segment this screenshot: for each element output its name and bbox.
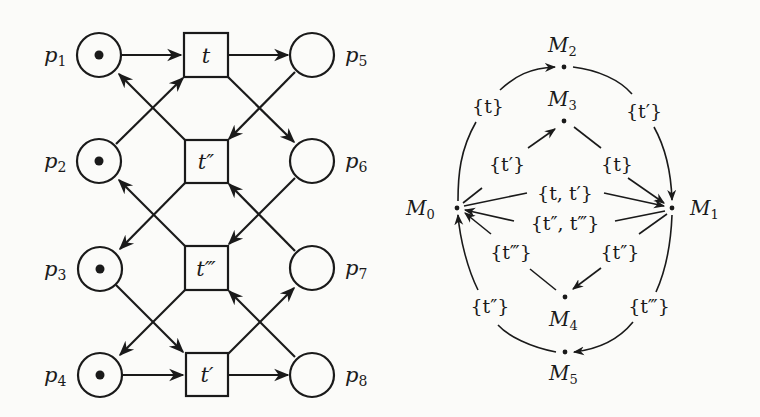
edge-m1-m5-upper: [656, 215, 672, 292]
token-icon: [95, 157, 104, 166]
place-p8: [290, 353, 334, 397]
edge-m1-m4-upper: [639, 214, 667, 234]
marking-label-m1: M1: [689, 196, 719, 222]
transition-label: t: [202, 44, 211, 68]
arc-t3-p2: [119, 180, 185, 246]
place-label-p2: p2: [44, 149, 66, 175]
marking-m2: [562, 65, 567, 70]
edge-labels: {t} {t′} {t′} {t} {t, t′} {t″, t‴} {t‴} …: [471, 95, 670, 317]
token-icon: [95, 51, 104, 60]
edge-m0-m3-upper: [528, 129, 555, 148]
marking-m1: [670, 206, 675, 211]
edge-m0-m1-right: [604, 193, 664, 206]
place-label-p5: p5: [345, 43, 367, 69]
place-label-p1: p1: [44, 43, 66, 69]
marking-m0: [455, 206, 460, 211]
edge-m5-m0-upper: [458, 215, 478, 290]
edge-m1-m4-lower: [573, 268, 601, 289]
edge-m2-m1-lower: [654, 127, 672, 200]
edge-label-m3-m1: {t}: [601, 153, 633, 175]
edge-m3-m1-upper: [574, 127, 601, 148]
edge-label-m1-m4: {t″}: [601, 241, 640, 263]
marking-label-m5: M5: [548, 361, 578, 387]
arc-p2-t: [116, 78, 183, 144]
marking-label-m2: M2: [547, 33, 577, 59]
edge-m1-m0-right: [615, 211, 665, 221]
place-label-p6: p6: [345, 149, 367, 175]
edge-m0-m2-upper: [500, 67, 555, 90]
marking-m3: [562, 119, 567, 124]
place-p2: [77, 139, 121, 183]
place-p7: [290, 246, 334, 290]
transition-label: t″: [198, 150, 214, 174]
marking-m5: [563, 350, 568, 355]
place-p5: [290, 33, 334, 77]
edge-label-m5-m0: {t″}: [471, 295, 510, 317]
place-p3: [78, 247, 122, 291]
arc-p6-t3: [229, 178, 295, 244]
arc-p3-t1: [116, 285, 183, 352]
arc-p8-t3: [229, 291, 295, 357]
edge-m2-m1-upper: [573, 67, 632, 94]
edge-label-m2-m1: {t′}: [626, 100, 662, 122]
transition-label: t‴: [196, 257, 215, 281]
arc-t1-p7: [228, 288, 294, 354]
marking-label-m4: M4: [548, 307, 578, 333]
place-label-p4: p4: [44, 363, 66, 389]
transition-label: t′: [200, 363, 213, 387]
edge-m4-m0-lower: [530, 269, 556, 290]
arc-t2-p3: [120, 183, 185, 249]
place-label-p3: p3: [44, 257, 66, 283]
token-icon: [96, 371, 105, 380]
arc-p7-t2: [229, 184, 295, 251]
edge-label-m0-m1: {t, t′}: [537, 182, 593, 204]
place-p1: [77, 33, 121, 77]
place-p6: [290, 139, 334, 183]
edge-label-m1-m0: {t″, t‴}: [531, 212, 600, 234]
place-label-p8: p8: [345, 363, 367, 389]
edge-label-m0-m2: {t}: [472, 95, 504, 117]
place-p4: [78, 353, 122, 397]
place-labels: p1 p2 p3 p4 p5 p6 p7 p8: [44, 43, 367, 389]
petri-arcs: [116, 55, 295, 375]
place-label-p7: p7: [345, 256, 367, 282]
petri-net: [77, 33, 334, 397]
diagram-canvas: t t″ t‴ t′ p1 p2 p3 p4 p5 p6 p7 p8: [0, 0, 760, 417]
edge-m0-m3-lower: [463, 188, 482, 203]
edge-label-m1-m5: {t‴}: [628, 295, 670, 317]
edge-label-m0-m3: {t′}: [489, 153, 525, 175]
edge-m1-m5-lower: [574, 322, 633, 352]
edge-m4-m0-upper: [465, 213, 491, 234]
token-icon: [96, 265, 105, 274]
marking-label-m0: M0: [405, 196, 435, 222]
marking-label-m3: M3: [547, 87, 577, 113]
edge-m5-m0-lower: [498, 325, 556, 352]
edge-m0-m2-lower: [458, 122, 476, 201]
marking-m4: [563, 295, 568, 300]
arc-t-p6: [228, 77, 294, 142]
edge-label-m4-m0: {t‴}: [490, 241, 532, 263]
arc-p5-t2: [229, 72, 295, 139]
